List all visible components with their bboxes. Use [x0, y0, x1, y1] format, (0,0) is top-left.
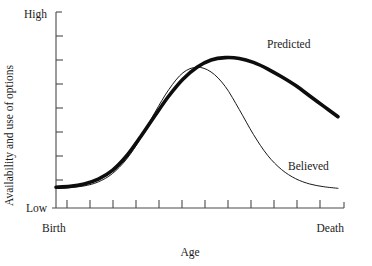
- x-axis-ticks: [67, 200, 320, 208]
- chart-figure: Availability and use of options High Low: [0, 0, 372, 266]
- y-axis-high-label: High: [24, 8, 47, 21]
- x-axis-birth-label: Birth: [42, 222, 66, 234]
- series-label-predicted: Predicted: [267, 38, 311, 50]
- y-axis-ticks: [56, 36, 63, 180]
- x-axis-title: Age: [180, 246, 199, 259]
- y-axis-title: Availability and use of options: [3, 65, 16, 206]
- x-axis-death-label: Death: [317, 222, 345, 234]
- series-label-believed: Believed: [288, 160, 329, 172]
- y-axis-low-label: Low: [26, 202, 48, 214]
- chart-svg: Availability and use of options High Low: [0, 0, 372, 266]
